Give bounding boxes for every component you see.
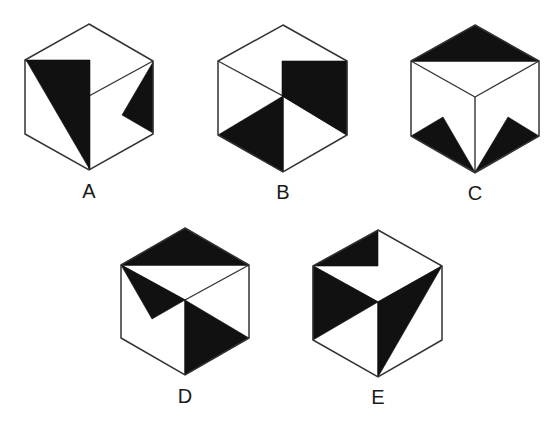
option-label-b: B xyxy=(263,182,303,202)
cube-options-diagram: A B C D E xyxy=(0,0,560,426)
option-label-e: E xyxy=(358,387,398,407)
option-label-a: A xyxy=(69,181,109,201)
option-label-c: C xyxy=(455,183,495,203)
cubes-canvas xyxy=(0,0,560,426)
cube-option-b xyxy=(218,25,347,172)
cube-option-d xyxy=(121,228,249,375)
shaded-triangle xyxy=(411,25,539,61)
option-label-d: D xyxy=(165,386,205,406)
cube-option-a xyxy=(25,24,153,170)
cube-option-e xyxy=(313,230,442,377)
shaded-triangle xyxy=(121,228,249,265)
cube-option-c xyxy=(411,25,539,173)
